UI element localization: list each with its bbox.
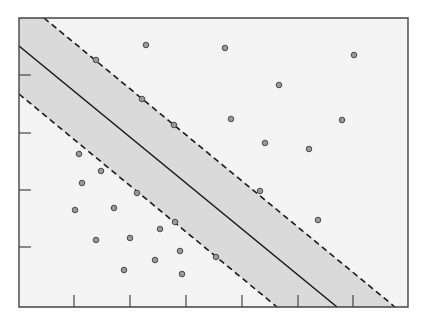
- data-point: [72, 207, 78, 213]
- data-point: [76, 151, 82, 157]
- data-point: [339, 117, 345, 123]
- data-point: [177, 248, 183, 254]
- data-point: [172, 219, 178, 225]
- data-point: [351, 52, 357, 58]
- data-point: [139, 96, 145, 102]
- data-point: [127, 235, 133, 241]
- data-point: [276, 82, 282, 88]
- data-point: [262, 140, 268, 146]
- data-point: [179, 271, 185, 277]
- data-point: [121, 267, 127, 273]
- data-point: [315, 217, 321, 223]
- data-point: [98, 168, 104, 174]
- data-point: [152, 257, 158, 263]
- svm-diagram: [0, 0, 424, 322]
- data-point: [157, 226, 163, 232]
- plot-canvas: [0, 0, 424, 322]
- data-point: [79, 180, 85, 186]
- data-point: [306, 146, 312, 152]
- data-point: [143, 42, 149, 48]
- data-point: [171, 122, 177, 128]
- data-point: [93, 57, 99, 63]
- data-point: [93, 237, 99, 243]
- data-point: [257, 188, 263, 194]
- data-point: [111, 205, 117, 211]
- data-point: [134, 190, 140, 196]
- data-point: [213, 254, 219, 260]
- data-point: [228, 116, 234, 122]
- data-point: [222, 45, 228, 51]
